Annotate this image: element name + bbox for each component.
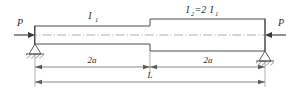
dimension-right-label: 2a bbox=[204, 55, 214, 65]
segment-label-left: I 1 bbox=[87, 10, 98, 23]
segment-left-symbol: I bbox=[87, 10, 92, 21]
segment-right-subscript-2: 1 bbox=[215, 10, 218, 17]
dimension-left-span: 2a bbox=[35, 55, 150, 69]
dimension-right-span: 2a bbox=[150, 55, 265, 69]
beam-diagram-canvas: P P I 1 I 2 =2 I 1 bbox=[0, 0, 296, 95]
load-arrow-right bbox=[265, 32, 286, 38]
segment-label-right: I 2 =2 I 1 bbox=[185, 4, 218, 17]
load-arrow-left bbox=[14, 32, 35, 38]
segment-left-subscript: 1 bbox=[95, 16, 98, 23]
load-label-left: P bbox=[16, 17, 23, 28]
segment-right-symbol-1: I bbox=[185, 4, 190, 15]
segment-right-equals: =2 bbox=[195, 4, 207, 15]
segment-right-symbol-2: I bbox=[209, 4, 214, 15]
dimension-total-span: L bbox=[35, 70, 265, 84]
dimension-left-label: 2a bbox=[88, 55, 98, 65]
dimension-total-label: L bbox=[146, 70, 152, 80]
load-label-right: P bbox=[277, 17, 284, 28]
beam-diagram-figure: P P I 1 I 2 =2 I 1 bbox=[0, 0, 296, 95]
